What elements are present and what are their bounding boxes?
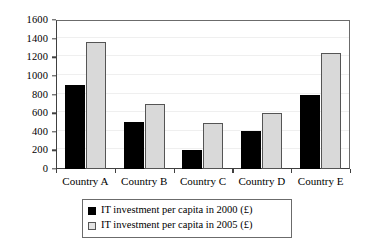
legend-label-2005: IT investment per capita in 2005 (£) bbox=[101, 220, 252, 231]
legend-swatch-2000-icon bbox=[88, 207, 96, 215]
legend-label-2000: IT investment per capita in 2000 (£) bbox=[101, 205, 252, 216]
x-tick-label: Country D bbox=[238, 176, 285, 187]
bar-group bbox=[232, 20, 291, 169]
y-tick-label: 400 bbox=[32, 127, 48, 138]
legend-swatch-2005-icon bbox=[88, 222, 96, 230]
y-tick-label: 1600 bbox=[27, 15, 48, 26]
bar-2005 bbox=[203, 123, 223, 169]
x-tick-mark bbox=[291, 169, 292, 173]
bar-2005 bbox=[145, 104, 165, 169]
bar-group bbox=[291, 20, 350, 169]
bar-2000 bbox=[300, 95, 320, 170]
x-tick-mark bbox=[174, 169, 175, 173]
y-tick-label: 0 bbox=[43, 164, 48, 175]
bar-2005 bbox=[321, 53, 341, 169]
legend-item-2000: IT investment per capita in 2000 (£) bbox=[88, 203, 286, 218]
bar-group bbox=[115, 20, 174, 169]
y-tick-label: 600 bbox=[32, 108, 48, 119]
legend-item-2005: IT investment per capita in 2005 (£) bbox=[88, 218, 286, 233]
bar-2000 bbox=[241, 131, 261, 169]
y-tick-label: 1400 bbox=[27, 33, 48, 44]
y-tick-label: 1200 bbox=[27, 52, 48, 63]
bar-2005 bbox=[86, 42, 106, 169]
x-tick-label: Country A bbox=[62, 176, 108, 187]
x-tick-mark bbox=[56, 169, 57, 173]
bar-2000 bbox=[124, 122, 144, 169]
x-tick-label: Country B bbox=[121, 176, 167, 187]
bar-chart: 02004006008001000120014001600 Country AC… bbox=[0, 0, 368, 238]
x-tick-label: Country E bbox=[298, 176, 344, 187]
y-tick-label: 1000 bbox=[27, 71, 48, 82]
bar-2000 bbox=[182, 150, 202, 169]
x-axis: Country ACountry BCountry CCountry DCoun… bbox=[56, 169, 350, 193]
x-tick-mark bbox=[232, 169, 233, 173]
bar-group bbox=[56, 20, 115, 169]
bars-layer bbox=[56, 20, 350, 169]
bar-group bbox=[174, 20, 233, 169]
x-tick-mark bbox=[350, 169, 351, 173]
y-tick-label: 200 bbox=[32, 145, 48, 156]
bar-2000 bbox=[65, 85, 85, 169]
y-axis: 02004006008001000120014001600 bbox=[0, 20, 56, 169]
y-tick-label: 800 bbox=[32, 89, 48, 100]
bar-2005 bbox=[262, 113, 282, 169]
chart-legend: IT investment per capita in 2000 (£) IT … bbox=[82, 199, 292, 238]
x-tick-mark bbox=[115, 169, 116, 173]
x-tick-label: Country C bbox=[180, 176, 226, 187]
